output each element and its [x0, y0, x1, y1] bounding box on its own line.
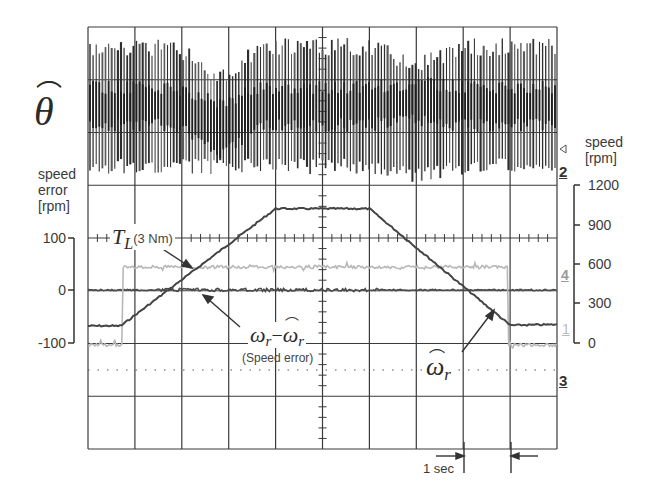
- annotation-arrows: [155, 244, 494, 352]
- left-tick-100: 100: [43, 230, 66, 246]
- right-tick-1200: 1200: [588, 177, 619, 193]
- channel-marker-4: 4: [561, 267, 569, 283]
- trigger-marker-icon: [560, 145, 566, 153]
- left-tick-0: 0: [58, 282, 66, 298]
- load-torque-label: TL(3 Nm): [110, 224, 175, 250]
- right-axis-title: speed [rpm]: [585, 134, 623, 166]
- right-tick-0: 0: [588, 335, 596, 351]
- theta-hat-hat: ⌒: [36, 74, 62, 111]
- speed-error-axis: [68, 238, 74, 343]
- omega-hat-accent: ⌒: [285, 313, 299, 333]
- time-scale-label: 1 sec: [423, 461, 454, 476]
- channel-marker-3: 3: [559, 372, 567, 389]
- speed-axis: [574, 185, 580, 343]
- right-tick-300: 300: [588, 295, 611, 311]
- left-tick-minus100: -100: [38, 335, 66, 351]
- oscilloscope-plot: [0, 0, 652, 503]
- omega-hat-accent-2: ⌒: [429, 344, 445, 368]
- theta-hat-label: ⌒ θ: [34, 88, 54, 135]
- speed-error-note: (Speed error): [242, 351, 313, 365]
- estimated-speed-label: ⌒ωr: [424, 352, 453, 382]
- right-tick-600: 600: [588, 256, 611, 272]
- channel-marker-2: 2: [559, 163, 567, 180]
- left-axis-title: speed error [rpm]: [38, 166, 76, 214]
- right-tick-900: 900: [588, 217, 611, 233]
- theta-hat-trace: [90, 38, 555, 182]
- speed-error-label: ωr−⌒ωr: [248, 322, 306, 348]
- channel-marker-1: 1: [562, 321, 570, 337]
